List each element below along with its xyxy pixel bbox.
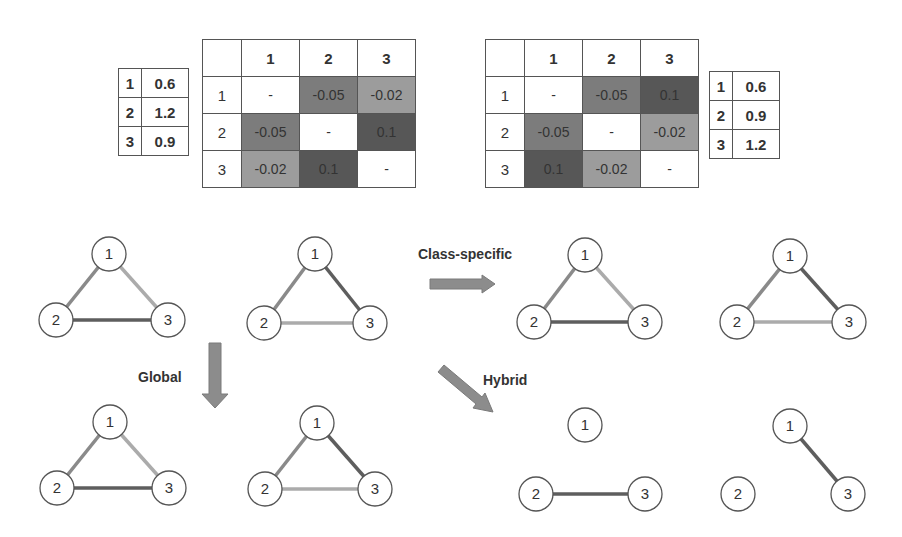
global-arrow-icon <box>202 343 228 408</box>
class-specific-arrow-icon <box>430 275 495 293</box>
node-label: 3 <box>641 485 649 502</box>
node-label: 1 <box>786 247 794 264</box>
node-label: 1 <box>581 416 589 433</box>
graph-class-specific-2: 123 <box>720 239 866 339</box>
graph-original-class-2: 123 <box>247 237 387 340</box>
graph-hybrid-2: 123 <box>721 409 865 511</box>
node-label: 1 <box>786 417 794 434</box>
node-label: 2 <box>261 480 269 497</box>
node-label: 1 <box>313 414 321 431</box>
graph-original-class-1: 123 <box>39 237 185 337</box>
node-label: 3 <box>371 480 379 497</box>
node-label: 2 <box>733 313 741 330</box>
node-label: 3 <box>845 313 853 330</box>
graph-class-specific-1: 123 <box>517 238 662 339</box>
graph-global-2: 123 <box>248 406 392 506</box>
node-label: 2 <box>260 314 268 331</box>
node-label: 1 <box>106 413 114 430</box>
graph-hybrid-1: 123 <box>519 408 662 511</box>
hybrid-arrow-icon <box>438 365 493 412</box>
node-label: 3 <box>165 479 173 496</box>
node-label: 2 <box>52 311 60 328</box>
node-label: 2 <box>53 479 61 496</box>
node-label: 3 <box>641 313 649 330</box>
node-label: 1 <box>581 246 589 263</box>
node-label: 1 <box>105 245 113 262</box>
node-label: 3 <box>164 311 172 328</box>
node-label: 3 <box>844 485 852 502</box>
node-label: 1 <box>311 245 319 262</box>
graph-diagram: 123123123123123123123123 <box>0 0 902 537</box>
node-label: 2 <box>532 485 540 502</box>
node-label: 2 <box>530 313 538 330</box>
graph-global-1: 123 <box>40 405 186 505</box>
node-label: 2 <box>734 485 742 502</box>
node-label: 3 <box>366 314 374 331</box>
